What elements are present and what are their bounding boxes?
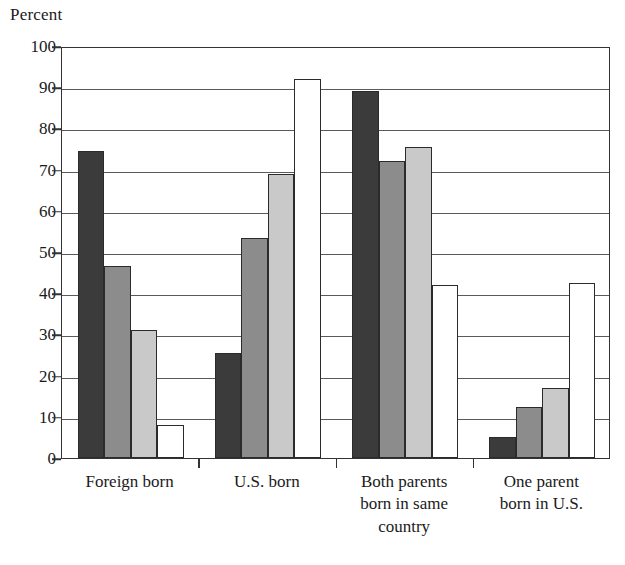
- y-axis-tick-label: 100: [8, 37, 56, 57]
- y-axis-tick-mark: [52, 376, 61, 378]
- x-axis-category-label: U.S. born: [190, 471, 343, 493]
- y-axis-tick-label: 60: [8, 202, 56, 222]
- y-axis-tick-mark: [52, 211, 61, 213]
- x-axis-category-label-line: Both parents: [328, 471, 481, 493]
- y-axis-tick-mark: [52, 417, 61, 419]
- bar: [489, 437, 516, 458]
- x-axis-tick-mark: [198, 459, 200, 468]
- bar: [78, 151, 105, 458]
- y-axis-tick-mark: [52, 170, 61, 172]
- y-axis-tick-label: 30: [8, 325, 56, 345]
- bar: [215, 353, 242, 458]
- bar: [405, 147, 432, 458]
- x-axis-category-label-line: Foreign born: [53, 471, 206, 493]
- y-axis-tick-mark: [52, 129, 61, 131]
- y-axis-tick-mark: [52, 46, 61, 48]
- y-axis-tick-label: 80: [8, 119, 56, 139]
- y-axis-tick-mark: [52, 335, 61, 337]
- bar: [104, 266, 131, 458]
- x-axis-category-label-line: born in U.S.: [465, 493, 618, 515]
- x-axis-tick-mark: [473, 459, 475, 468]
- bar-chart: Percent 1009080706050403020100 Foreign b…: [0, 0, 625, 565]
- y-axis-tick-mark: [52, 252, 61, 254]
- y-axis-tick-label: 0: [8, 449, 56, 469]
- x-axis-tick-mark: [336, 459, 338, 468]
- y-axis-title: Percent: [10, 5, 62, 25]
- bar: [516, 407, 543, 459]
- y-axis-tick-label: 50: [8, 243, 56, 263]
- x-axis-category-label: Both parentsborn in samecountry: [328, 471, 481, 538]
- bar: [294, 79, 321, 458]
- y-axis-tick-label: 70: [8, 161, 56, 181]
- y-axis-tick-mark: [52, 87, 61, 89]
- bar: [157, 425, 184, 458]
- x-axis-category-label-line: U.S. born: [190, 471, 343, 493]
- x-axis-category-label-line: born in same: [328, 493, 481, 515]
- y-axis-tick-label: 90: [8, 78, 56, 98]
- bar: [131, 330, 158, 458]
- bar: [352, 91, 379, 458]
- bar: [569, 283, 596, 458]
- y-axis-tick-label: 20: [8, 367, 56, 387]
- x-axis-category-label-line: One parent: [465, 471, 618, 493]
- bar: [379, 161, 406, 458]
- bar: [432, 285, 459, 458]
- plot-area: [61, 47, 610, 459]
- y-axis-tick-mark: [52, 458, 61, 460]
- y-axis-tick-label: 40: [8, 284, 56, 304]
- bar: [542, 388, 569, 458]
- bars-layer: [62, 48, 609, 458]
- bar: [268, 174, 295, 458]
- x-axis-category-label: One parentborn in U.S.: [465, 471, 618, 516]
- y-axis-tick-mark: [52, 293, 61, 295]
- x-axis-category-label-line: country: [328, 516, 481, 538]
- bar: [241, 238, 268, 458]
- y-axis-tick-label: 10: [8, 408, 56, 428]
- x-axis-category-label: Foreign born: [53, 471, 206, 493]
